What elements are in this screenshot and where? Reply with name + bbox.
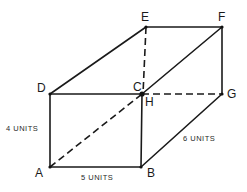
vertex-dot-a (48, 165, 51, 168)
vertex-dot-e (144, 25, 147, 28)
edge-c-f (142, 27, 222, 94)
vertex-label-d: D (37, 81, 46, 95)
vertex-label-c: C (133, 80, 142, 94)
edge-e-c-dashed (143, 27, 146, 94)
vertex-label-h: H (145, 95, 154, 109)
vertex-dot-g (220, 92, 223, 95)
vertex-label-g: G (227, 87, 236, 101)
dimension-label-height: 4 UNITS (6, 124, 38, 133)
vertex-label-e: E (141, 10, 149, 24)
vertex-dot-f (220, 25, 223, 28)
vertex-dot-d (48, 92, 51, 95)
edge-b-h (141, 94, 142, 167)
vertex-label-f: F (218, 10, 225, 24)
vertex-dot-b (139, 165, 142, 168)
box-diagram: A B C D E F G H 4 UNITS 5 UNITS 6 UNITS (0, 0, 247, 192)
vertex-label-a: A (35, 166, 43, 180)
dimension-label-length: 5 UNITS (81, 173, 113, 182)
vertex-label-b: B (147, 166, 155, 180)
edge-a-h-dashed (50, 94, 142, 167)
edge-d-e (50, 27, 146, 94)
dimension-label-depth: 6 UNITS (183, 134, 215, 143)
